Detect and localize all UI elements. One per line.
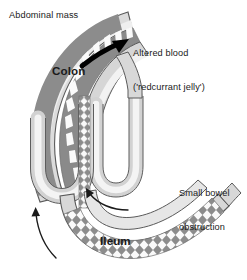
- label-ileum: Ileum: [100, 234, 131, 248]
- label-small-bowel-line2: obstruction: [179, 222, 230, 233]
- peristalsis-outer-arrow: [32, 207, 57, 258]
- label-altered-blood-line2: ('redcurrant jelly'): [133, 82, 205, 93]
- label-small-bowel-obstruction: Small bowel obstruction: [179, 166, 230, 256]
- label-abdominal-mass: Abdominal mass: [9, 10, 78, 21]
- label-colon: Colon: [52, 64, 85, 78]
- label-altered-blood-line1: Altered blood: [133, 48, 205, 59]
- label-altered-blood: Altered blood ('redcurrant jelly'): [133, 26, 205, 116]
- label-small-bowel-line1: Small bowel: [179, 188, 230, 199]
- intussusception-diagram: Abdominal mass Altered blood ('redcurran…: [0, 0, 247, 280]
